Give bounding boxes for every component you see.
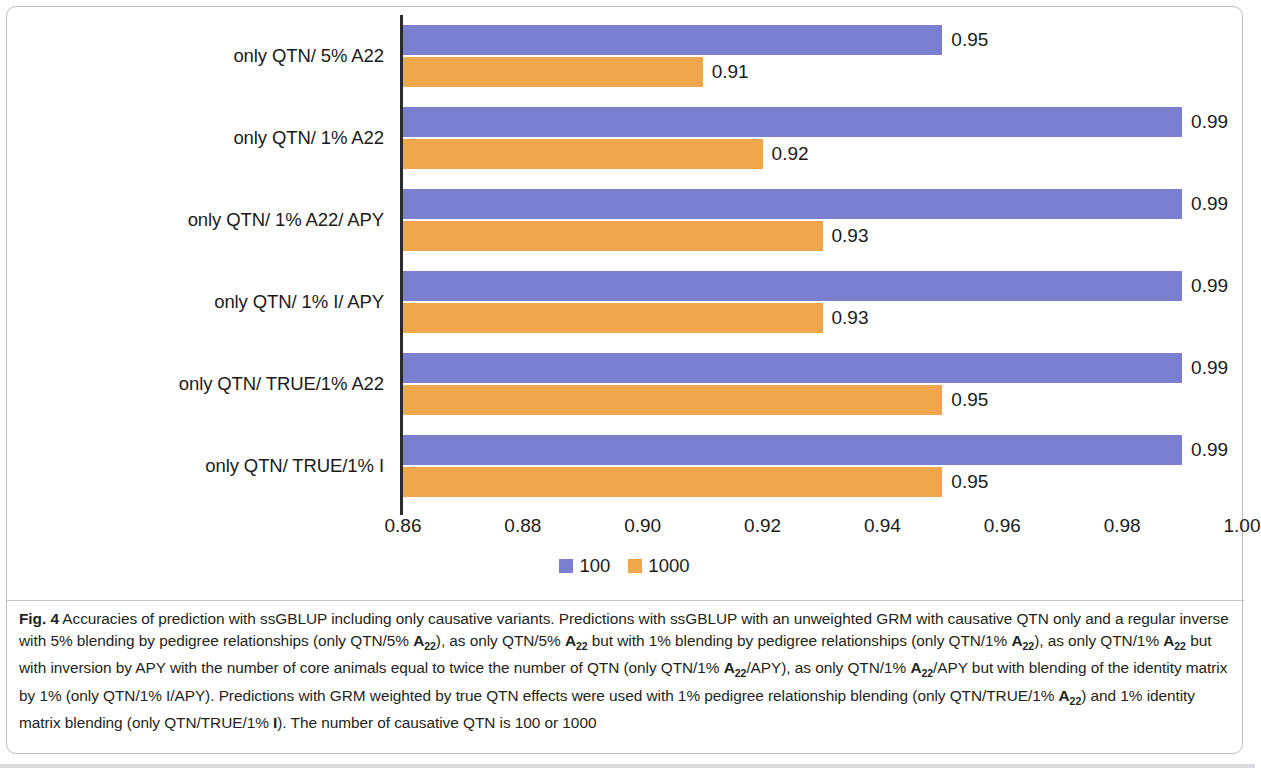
bar-row: 0.93: [403, 221, 1242, 251]
caption-segment: 22: [921, 667, 933, 679]
bar-value-label: 0.99: [1191, 357, 1228, 379]
category-label: only QTN/ TRUE/1% I: [7, 425, 397, 507]
bar-group: 0.990.95: [403, 425, 1242, 507]
x-tick-label: 1.00: [1224, 515, 1261, 537]
category-axis-labels: only QTN/ 5% A22only QTN/ 1% A22only QTN…: [7, 15, 397, 507]
chart-region: only QTN/ 5% A22only QTN/ 1% A22only QTN…: [7, 7, 1242, 597]
legend-swatch-icon: [559, 559, 573, 573]
bar-value-label: 0.93: [832, 307, 869, 329]
caption-segment: 22: [424, 640, 436, 652]
bar-row: 0.92: [403, 139, 1242, 169]
bar-value-label: 0.99: [1191, 275, 1228, 297]
bar-1000: [403, 57, 703, 87]
caption-segment: A: [1059, 687, 1070, 704]
x-tick-label: 0.94: [864, 515, 901, 537]
caption-segment: ), as only QTN/1%: [1034, 632, 1163, 649]
caption-segment: A: [724, 659, 735, 676]
bar-row: 0.95: [403, 467, 1242, 497]
caption-segment: A: [1163, 632, 1174, 649]
x-tick-label: 0.92: [744, 515, 781, 537]
bar-1000: [403, 303, 823, 333]
bar-value-label: 0.99: [1191, 439, 1228, 461]
caption-segment: ), as only QTN/5%: [436, 632, 565, 649]
x-tick-label: 0.96: [984, 515, 1021, 537]
bar-row: 0.93: [403, 303, 1242, 333]
x-axis-ticks: 0.860.880.900.920.940.960.981.00: [403, 515, 1242, 555]
bar-1000: [403, 385, 942, 415]
bar-value-label: 0.95: [951, 389, 988, 411]
bar-row: 0.99: [403, 107, 1242, 137]
bar-value-label: 0.93: [832, 225, 869, 247]
category-label: only QTN/ 1% A22: [7, 97, 397, 179]
caption-segment: ). The number of causative QTN is 100 or…: [277, 714, 596, 731]
x-tick-label: 0.98: [1104, 515, 1141, 537]
plot-area: only QTN/ 5% A22only QTN/ 1% A22only QTN…: [7, 15, 1242, 550]
bar-row: 0.99: [403, 189, 1242, 219]
bar-value-label: 0.99: [1191, 193, 1228, 215]
bar-100: [403, 25, 942, 55]
category-label: only QTN/ TRUE/1% A22: [7, 343, 397, 425]
legend-item-100: 100: [559, 555, 610, 577]
x-tick-label: 0.88: [504, 515, 541, 537]
caption-segment: but with 1% blending by pedigree relatio…: [588, 632, 1012, 649]
caption-segment: A: [910, 659, 921, 676]
figure-frame: only QTN/ 5% A22only QTN/ 1% A22only QTN…: [6, 6, 1243, 754]
bar-group: 0.990.93: [403, 179, 1242, 261]
bar-row: 0.99: [403, 435, 1242, 465]
bar-100: [403, 271, 1182, 301]
bar-value-label: 0.92: [772, 143, 809, 165]
bar-row: 0.95: [403, 385, 1242, 415]
bar-1000: [403, 221, 823, 251]
bar-group: 0.950.91: [403, 15, 1242, 97]
figure-caption: Fig. 4 Accuracies of prediction with ssG…: [19, 608, 1231, 734]
chart-legend: 1001000: [7, 555, 1242, 577]
bar-value-label: 0.91: [712, 61, 749, 83]
bar-value-label: 0.95: [951, 29, 988, 51]
category-label: only QTN/ 5% A22: [7, 15, 397, 97]
bar-100: [403, 435, 1182, 465]
bar-group: 0.990.92: [403, 97, 1242, 179]
category-label: only QTN/ 1% I/ APY: [7, 261, 397, 343]
legend-label: 1000: [648, 555, 689, 577]
legend-swatch-icon: [628, 559, 642, 573]
caption-segment: A: [1011, 632, 1022, 649]
caption-segment: 22: [1174, 640, 1186, 652]
page-bottom-rule: [0, 764, 1255, 768]
caption-divider: [7, 600, 1244, 601]
bar-group: 0.990.93: [403, 261, 1242, 343]
bar-row: 0.95: [403, 25, 1242, 55]
x-tick-label: 0.86: [385, 515, 422, 537]
bar-value-label: 0.95: [951, 471, 988, 493]
legend-label: 100: [579, 555, 610, 577]
bar-100: [403, 189, 1182, 219]
caption-segment: 22: [735, 667, 747, 679]
x-tick-label: 0.90: [624, 515, 661, 537]
caption-segment: Fig. 4: [19, 610, 59, 627]
bar-group: 0.990.95: [403, 343, 1242, 425]
caption-segment: 22: [1070, 695, 1082, 707]
bar-row: 0.91: [403, 57, 1242, 87]
bars-container: 0.950.910.990.920.990.930.990.930.990.95…: [403, 15, 1242, 507]
legend-item-1000: 1000: [628, 555, 689, 577]
caption-segment: /APY), as only QTN/1%: [746, 659, 910, 676]
bar-1000: [403, 139, 763, 169]
caption-segment: A: [565, 632, 576, 649]
caption-segment: 22: [576, 640, 588, 652]
category-label: only QTN/ 1% A22/ APY: [7, 179, 397, 261]
bar-row: 0.99: [403, 353, 1242, 383]
bar-value-label: 0.99: [1191, 111, 1228, 133]
caption-segment: A: [413, 632, 424, 649]
caption-segment: 22: [1023, 640, 1035, 652]
bar-row: 0.99: [403, 271, 1242, 301]
bar-100: [403, 107, 1182, 137]
bar-1000: [403, 467, 942, 497]
bar-100: [403, 353, 1182, 383]
